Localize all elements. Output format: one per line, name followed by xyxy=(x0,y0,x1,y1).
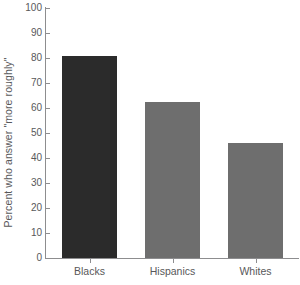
x-axis-category-label: Whites xyxy=(211,265,300,278)
y-axis-tick-label: 20 xyxy=(2,203,42,213)
y-axis-title: Percent who answer "more roughly" xyxy=(0,0,16,285)
y-axis-tick-label: 30 xyxy=(2,178,42,188)
y-axis-tick xyxy=(46,208,50,209)
y-axis-tick xyxy=(46,133,50,134)
y-axis-tick-label: 50 xyxy=(2,128,42,138)
bar-hispanics xyxy=(145,102,200,258)
y-axis-tick-label: 0 xyxy=(2,253,42,263)
bar-blacks xyxy=(62,56,117,259)
y-axis-tick xyxy=(46,8,50,9)
y-axis-tick-label: 100 xyxy=(2,3,42,13)
bar-whites xyxy=(228,143,283,258)
x-axis-line xyxy=(45,258,299,259)
bar-chart: Percent who answer "more roughly" 010203… xyxy=(0,0,299,285)
y-axis-tick xyxy=(46,108,50,109)
y-axis-tick-label: 10 xyxy=(2,228,42,238)
y-axis-tick xyxy=(46,83,50,84)
x-axis-tick xyxy=(173,259,174,263)
y-axis-tick-label: 40 xyxy=(2,153,42,163)
x-axis-category-label: Blacks xyxy=(45,265,135,278)
y-axis-tick xyxy=(46,158,50,159)
y-axis-tick xyxy=(46,183,50,184)
y-axis-tick-label: 60 xyxy=(2,103,42,113)
y-axis-tick-label: 80 xyxy=(2,53,42,63)
x-axis-tick xyxy=(90,259,91,263)
y-axis-tick xyxy=(46,33,50,34)
y-axis-tick-label: 90 xyxy=(2,28,42,38)
y-axis-tick-label: 70 xyxy=(2,78,42,88)
x-axis-tick xyxy=(256,259,257,263)
x-axis-category-label: Hispanics xyxy=(128,265,218,278)
y-axis-tick xyxy=(46,58,50,59)
y-axis-tick xyxy=(46,258,50,259)
y-axis-tick xyxy=(46,233,50,234)
